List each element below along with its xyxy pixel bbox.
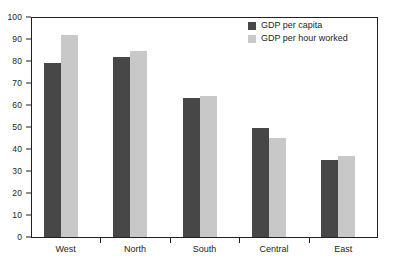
legend: GDP per capitaGDP per hour worked [248,21,348,43]
bar [44,63,61,237]
x-tick-label: North [124,245,146,254]
x-tick-mark [170,238,171,243]
x-tick-mark [309,238,310,243]
bar [183,98,200,237]
x-tick-mark [100,238,101,243]
x-tick-label: East [334,245,352,254]
bar [269,138,286,237]
bar [61,35,78,237]
x-tick-label: Central [259,245,288,254]
bar [113,57,130,237]
legend-swatch-icon [248,35,256,43]
bar-chart: 0102030405060708090100 WestNorthSouthCen… [0,0,393,266]
bar [338,156,355,237]
legend-swatch-icon [248,22,256,30]
bar [130,51,147,237]
legend-label: GDP per capita [261,21,322,30]
x-tick-mark [239,238,240,243]
x-tick-label: South [193,245,217,254]
bar [321,160,338,237]
legend-label: GDP per hour worked [261,34,348,43]
legend-item: GDP per capita [248,21,348,30]
bar [252,128,269,237]
legend-item: GDP per hour worked [248,34,348,43]
bar [200,96,217,237]
x-tick-label: West [56,245,76,254]
